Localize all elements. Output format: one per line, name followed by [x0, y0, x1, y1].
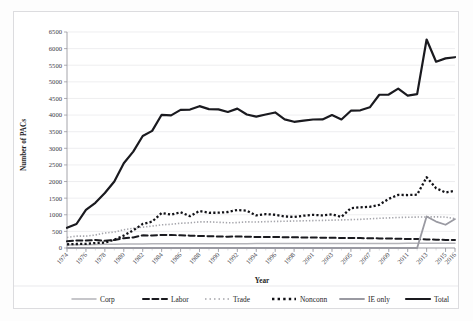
y-tick-label: 4000 [49, 111, 63, 118]
legend-label-corp: Corp [100, 295, 115, 304]
x-tick-label: 1974 [55, 250, 70, 265]
y-tick-label: 4500 [49, 95, 63, 102]
legend-label-nonconn: Nonconn [300, 295, 327, 304]
y-tick-label: 6000 [49, 45, 63, 52]
x-tick-label: 1998 [282, 250, 297, 265]
y-tick-label: 5500 [49, 62, 63, 69]
x-tick-label: 1988 [188, 250, 203, 265]
x-tick-label: 2001 [301, 251, 315, 265]
x-axis-title: Year [255, 277, 270, 285]
x-tick-label: 1990 [207, 250, 222, 265]
chart-figure: 0500100015002000250030003500400045005000… [0, 0, 473, 321]
x-tick-label: 2009 [377, 250, 392, 265]
x-tick-label: 2013 [415, 250, 430, 265]
legend-label-trade: Trade [233, 295, 251, 304]
x-tick-label: 1992 [225, 251, 239, 265]
series-line-trade [67, 217, 455, 238]
x-tick-label: 2016 [443, 250, 458, 265]
x-tick-label: 2003 [320, 250, 335, 265]
y-tick-label: 2500 [49, 161, 63, 168]
x-tick-label: 2011 [396, 251, 410, 265]
y-tick-label: 0 [59, 244, 63, 251]
series-line-nonconn [67, 177, 455, 244]
legend-label-total: Total [434, 295, 449, 304]
y-axis-title: Number of PACs [20, 119, 28, 171]
x-tick-label: 2007 [358, 250, 373, 265]
x-axis-ticks-group: 1974197619781980198219841986198819901992… [55, 248, 458, 265]
x-tick-label: 1976 [74, 250, 89, 265]
series-line-labor [67, 235, 455, 241]
x-tick-label: 1984 [150, 250, 165, 265]
x-tick-label: 1982 [131, 251, 145, 265]
x-tick-label: 1980 [112, 250, 127, 265]
legend-label-labor: Labor [171, 295, 189, 304]
x-tick-label: 1978 [93, 250, 108, 265]
pac-count-line-chart: 0500100015002000250030003500400045005000… [0, 0, 473, 321]
y-tick-label: 3000 [49, 145, 63, 152]
y-tick-label: 5000 [49, 78, 63, 85]
y-tick-label: 500 [52, 228, 63, 235]
y-tick-label: 6500 [49, 28, 63, 35]
y-tick-label: 1000 [49, 211, 63, 218]
legend-label-ie-only: IE only [368, 295, 390, 304]
y-tick-label: 1500 [49, 195, 63, 202]
x-tick-label: 1996 [263, 250, 278, 265]
data-series-group [67, 40, 455, 248]
y-axis-ticks-group: 0500100015002000250030003500400045005000… [49, 28, 67, 251]
series-line-corp [67, 243, 455, 245]
y-tick-label: 3500 [49, 128, 63, 135]
x-tick-label: 2005 [339, 250, 354, 265]
y-tick-label: 2000 [49, 178, 63, 185]
series-line-total [67, 40, 455, 228]
x-tick-label: 1986 [169, 250, 184, 265]
x-tick-label: 1994 [244, 250, 259, 265]
chart-legend: CorpLaborTradeNonconnIE onlyTotal [72, 295, 449, 304]
